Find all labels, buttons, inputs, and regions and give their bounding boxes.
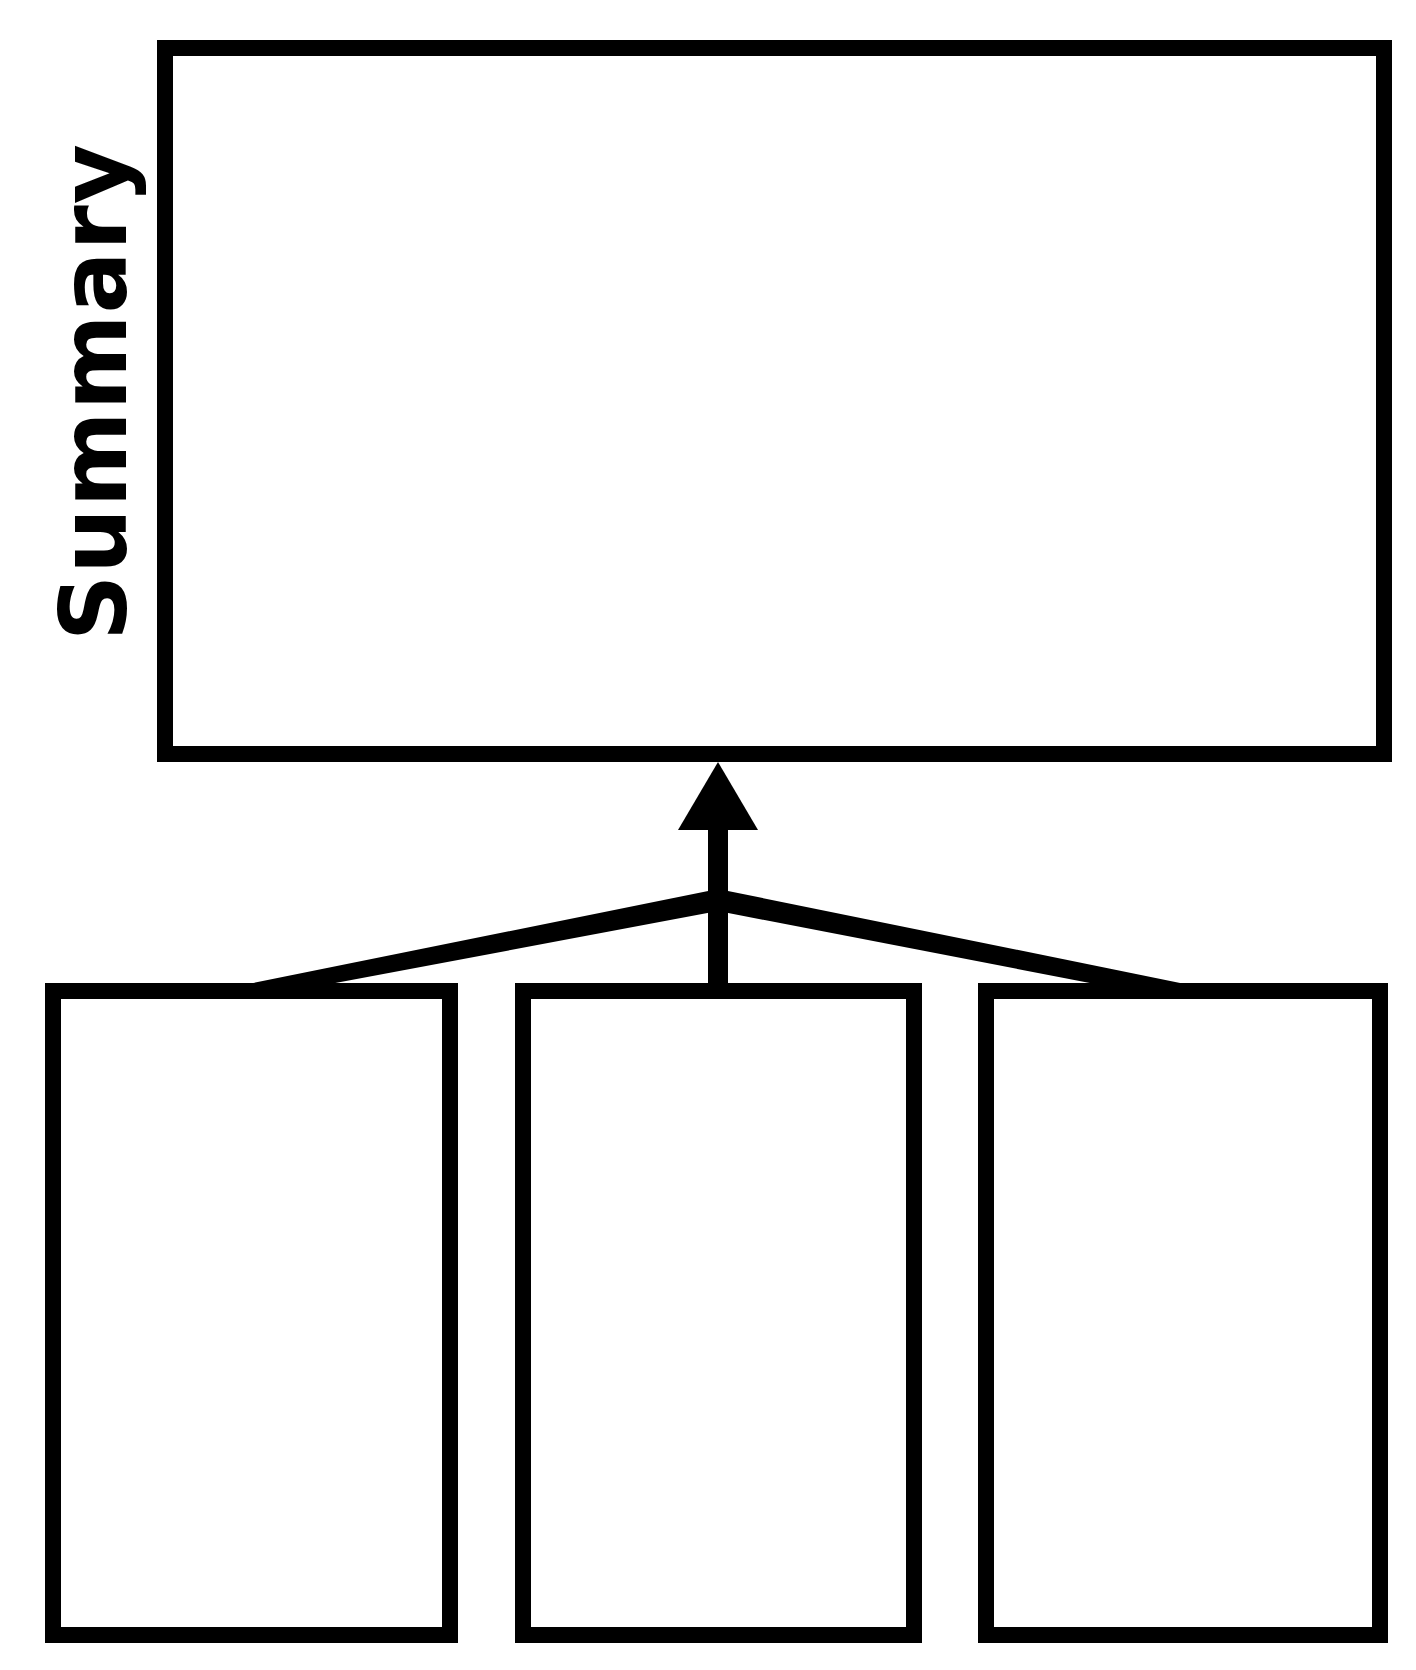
detail-box-1[interactable] — [45, 983, 458, 1643]
detail-box-2[interactable] — [515, 983, 922, 1643]
summary-graphic-organizer: Summary — [0, 0, 1416, 1670]
right-connector-line — [718, 889, 1185, 984]
detail-box-3[interactable] — [978, 983, 1388, 1643]
arrowhead-up-icon — [678, 762, 758, 830]
left-connector-line — [248, 889, 718, 984]
